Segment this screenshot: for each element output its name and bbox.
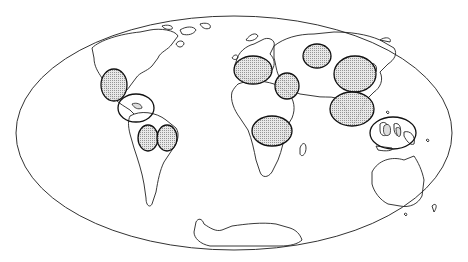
region-amazon-east bbox=[157, 125, 177, 151]
region-southeast-asia-indonesia bbox=[370, 117, 416, 149]
region-mediterranean-europe bbox=[234, 56, 272, 84]
australia bbox=[372, 156, 424, 207]
region-andes-amazon-west bbox=[138, 125, 158, 151]
region-central-america-mexico bbox=[101, 69, 127, 101]
region-central-asia bbox=[303, 44, 331, 68]
region-middle-east bbox=[275, 73, 299, 99]
region-central-africa bbox=[252, 116, 292, 146]
region-china bbox=[334, 56, 376, 92]
region-south-asia-india bbox=[330, 92, 374, 126]
antarctica bbox=[194, 219, 302, 246]
world-map bbox=[0, 0, 468, 262]
highlighted-regions bbox=[101, 44, 416, 151]
